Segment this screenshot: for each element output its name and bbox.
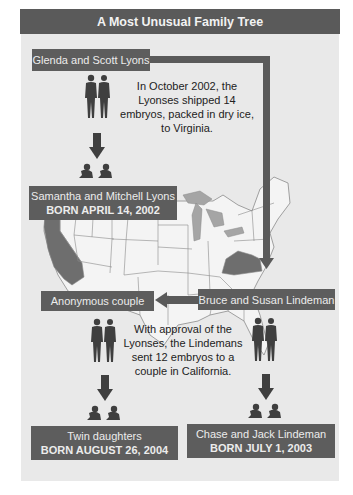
- couple-silhouette-icon: [90, 318, 118, 364]
- left-arrow-icon: [155, 292, 199, 308]
- connector-lyons-to-lindeman-vertical: [263, 56, 270, 260]
- lindeman-children-born: BORN JULY 1, 2003: [210, 441, 312, 455]
- page-title: A Most Unusual Family Tree: [20, 9, 340, 34]
- lyons-children-name: Samantha and Mitchell Lyons: [31, 189, 175, 203]
- shipment-2-note: With approval of the Lyonses, the Lindem…: [123, 322, 243, 378]
- lindeman-parents-name: Bruce and Susan Lindeman: [199, 293, 335, 307]
- down-arrow-icon: [89, 133, 105, 159]
- lindeman-parents-label: Bruce and Susan Lindeman: [198, 289, 335, 310]
- couple-silhouette-icon: [251, 317, 279, 363]
- anonymous-children-name: Twin daughters: [67, 429, 142, 443]
- down-arrow-icon: [259, 258, 274, 270]
- anonymous-parents-name: Anonymous couple: [51, 294, 145, 308]
- twin-babies-icon: [78, 163, 116, 179]
- down-arrow-icon: [258, 374, 274, 400]
- lyons-parents-name: Glenda and Scott Lyons: [32, 53, 149, 67]
- down-arrow-icon: [97, 375, 113, 401]
- lyons-parents-label: Glenda and Scott Lyons: [32, 49, 150, 71]
- shipment-1-note: In October 2002, the Lyonses shipped 14 …: [117, 79, 257, 135]
- anonymous-children-born: BORN AUGUST 26, 2004: [41, 443, 168, 457]
- lyons-children-label: Samantha and Mitchell Lyons BORN APRIL 1…: [29, 186, 177, 220]
- connector-lyons-to-lindeman-horizontal: [150, 56, 270, 63]
- anonymous-children-label: Twin daughters BORN AUGUST 26, 2004: [31, 426, 178, 460]
- twin-babies-icon: [247, 403, 285, 419]
- couple-silhouette-icon: [84, 74, 112, 120]
- twin-babies-icon: [86, 405, 124, 421]
- lindeman-children-name: Chase and Jack Lindeman: [196, 427, 326, 441]
- lindeman-children-label: Chase and Jack Lindeman BORN JULY 1, 200…: [187, 424, 335, 458]
- anonymous-parents-label: Anonymous couple: [41, 291, 154, 311]
- lyons-children-born: BORN APRIL 14, 2002: [46, 203, 160, 217]
